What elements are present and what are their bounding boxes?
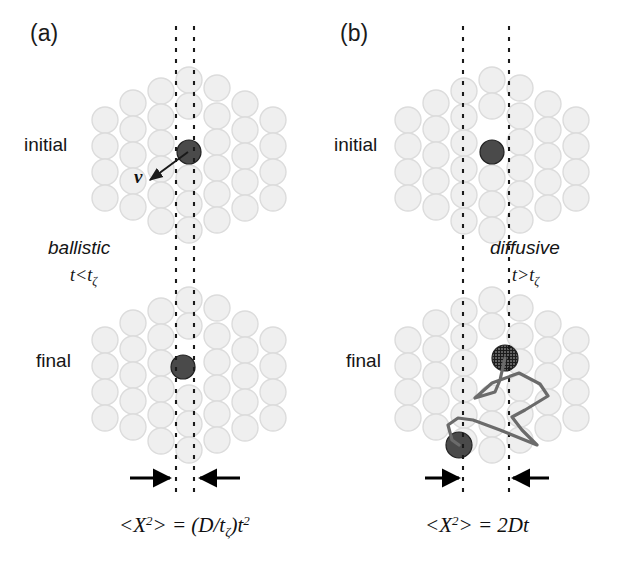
medium-particle (204, 323, 230, 349)
medium-particle (148, 350, 174, 376)
medium-particle (148, 130, 174, 156)
medium-particle (204, 181, 230, 207)
panel-a-condition-subscript: ζ (92, 274, 97, 288)
cluster-b-initial (395, 67, 589, 243)
formula-a-tail: )t (230, 513, 243, 537)
medium-particle (120, 336, 146, 362)
medium-particle (563, 379, 589, 405)
medium-particle (479, 191, 505, 217)
medium-particle (204, 129, 230, 155)
medium-particle (232, 311, 258, 337)
medium-particle (120, 90, 146, 116)
medium-particle (423, 168, 449, 194)
medium-particle (176, 165, 202, 191)
medium-particle (232, 337, 258, 363)
medium-particle (176, 313, 202, 339)
panel-b-condition-prefix: t>t (512, 265, 534, 285)
medium-particle (423, 362, 449, 388)
medium-particle (507, 295, 533, 321)
medium-particle (507, 75, 533, 101)
medium-particle (479, 67, 505, 93)
medium-particle (260, 185, 286, 211)
medium-particle (92, 405, 118, 431)
medium-particle (204, 155, 230, 181)
medium-particle (204, 103, 230, 129)
medium-particle (92, 107, 118, 133)
formula-b-mean-open: <X (425, 513, 452, 537)
formula-b-mean-close: > = 2Dt (459, 513, 529, 537)
medium-particle (451, 350, 477, 376)
medium-particle (92, 353, 118, 379)
medium-particle (507, 323, 533, 349)
medium-particle (563, 185, 589, 211)
medium-particle (148, 78, 174, 104)
cluster-b-final (395, 287, 589, 463)
medium-particle (507, 129, 533, 155)
medium-particle (92, 185, 118, 211)
medium-particle (395, 353, 421, 379)
medium-particle (204, 75, 230, 101)
medium-particle (148, 208, 174, 234)
medium-particle (423, 388, 449, 414)
medium-particle (204, 207, 230, 233)
cluster-a-final (92, 287, 286, 463)
medium-particle (120, 116, 146, 142)
cluster-a-initial (92, 67, 286, 243)
medium-particle (507, 207, 533, 233)
formula-a-mean-open: <X (119, 513, 146, 537)
panel-b-state-initial-label: initial (334, 134, 377, 156)
panel-b-state-final-label: final (346, 350, 381, 372)
medium-particle (260, 327, 286, 353)
medium-particle (260, 133, 286, 159)
medium-particle (507, 155, 533, 181)
medium-particle (120, 310, 146, 336)
panel-a-state-initial-label: initial (24, 134, 67, 156)
medium-particle (535, 169, 561, 195)
medium-particle (423, 142, 449, 168)
medium-particle (176, 287, 202, 313)
medium-particle (148, 324, 174, 350)
panel-label-b: (b) (340, 20, 368, 47)
medium-particle (451, 130, 477, 156)
medium-particle (120, 414, 146, 440)
tracer-particle (171, 355, 195, 379)
medium-particle (563, 405, 589, 431)
medium-particle (232, 363, 258, 389)
medium-particle (563, 159, 589, 185)
medium-particle (148, 428, 174, 454)
medium-particle (92, 379, 118, 405)
panel-b-regime-condition: t>tζ (512, 265, 539, 289)
formula-panel-a: <X2> = (D/tζ)t2 (119, 513, 250, 540)
medium-particle (507, 427, 533, 453)
medium-particle (535, 91, 561, 117)
medium-particle (479, 287, 505, 313)
medium-particle (232, 91, 258, 117)
medium-particle (395, 133, 421, 159)
medium-particle (395, 405, 421, 431)
medium-particle (176, 67, 202, 93)
medium-particle (395, 159, 421, 185)
medium-particle (176, 191, 202, 217)
medium-particle (232, 143, 258, 169)
medium-particle (423, 90, 449, 116)
panel-a-condition-prefix: t<t (70, 265, 92, 285)
medium-particle (423, 194, 449, 220)
medium-particle (563, 353, 589, 379)
medium-particle (204, 295, 230, 321)
medium-particle (260, 353, 286, 379)
medium-particle (120, 142, 146, 168)
medium-particle (148, 402, 174, 428)
medium-particle (176, 93, 202, 119)
medium-particle (423, 336, 449, 362)
medium-particle (92, 327, 118, 353)
panel-a-regime-label: ballistic (48, 237, 110, 259)
medium-particle (507, 181, 533, 207)
panel-label-a: (a) (30, 20, 58, 47)
medium-particle (260, 107, 286, 133)
medium-particle (148, 182, 174, 208)
medium-particle (507, 103, 533, 129)
medium-particle (204, 427, 230, 453)
panel-a-regime-condition: t<tζ (70, 265, 97, 289)
velocity-label-panel-a: v (134, 166, 142, 188)
medium-particle (204, 401, 230, 427)
